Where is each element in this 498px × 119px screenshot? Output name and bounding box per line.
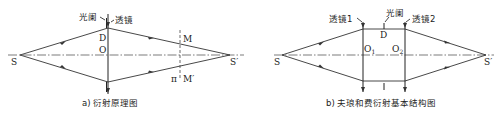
label-source-b: S xyxy=(274,57,280,67)
label-M-prime: M′ xyxy=(183,74,194,84)
label-aperture-b: 光阑 xyxy=(386,8,404,18)
label-lens1: 透镜1 xyxy=(329,14,352,24)
diagram-b: S S′ 透镜1 光阑 透镜2 D O1 O2 b) 夫琅和费衍射基本结构图 xyxy=(274,8,494,108)
label-O-a: O xyxy=(99,45,106,55)
label-D-b: D xyxy=(380,30,387,40)
lens2-leader xyxy=(406,19,410,22)
label-lens2: 透镜2 xyxy=(412,14,435,24)
caption-a: a) 衍射原理图 xyxy=(82,98,138,108)
arrow-icon xyxy=(444,67,450,70)
ray-lower-b xyxy=(282,55,486,81)
label-lens-a: 透镜 xyxy=(115,15,133,25)
label-source-a: S xyxy=(11,57,17,67)
label-aperture-a: 光阑 xyxy=(79,12,97,22)
diagram-a: S S′ 光阑 透镜 D O M π M′ a) 衍射原理图 xyxy=(8,12,244,108)
lens1-arrow-top-icon xyxy=(361,23,365,28)
lens-leader-a xyxy=(111,20,114,22)
arrow-icon xyxy=(444,41,450,44)
caption-b: b) 夫琅和费衍射基本结构图 xyxy=(326,98,436,108)
aperture-leader-a xyxy=(100,17,105,20)
lens1-leader xyxy=(357,18,362,22)
lens2-arrow-bottom-icon xyxy=(403,87,407,92)
label-D-a: D xyxy=(99,33,106,43)
ray-upper-a xyxy=(20,28,230,55)
label-image-b: S′ xyxy=(484,57,492,67)
label-image-a: S′ xyxy=(230,57,238,67)
label-O1: O1 xyxy=(364,44,375,55)
label-pi: π xyxy=(171,74,177,84)
ray-lower-a xyxy=(20,55,230,82)
label-O2: O2 xyxy=(392,44,403,55)
label-M: M xyxy=(183,34,192,44)
lens2-arrow-top-icon xyxy=(403,23,407,28)
lens1-arrow-bottom-icon xyxy=(361,87,365,92)
